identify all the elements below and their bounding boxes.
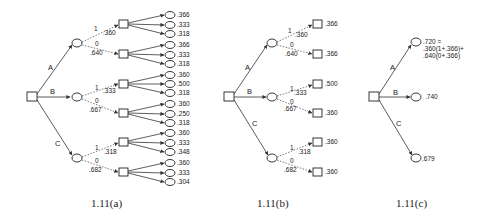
svg-text:C: C <box>396 119 402 128</box>
svg-text:.640: .640 <box>90 49 103 56</box>
decision-node-b0 <box>119 109 128 117</box>
svg-text:1: 1 <box>95 84 99 91</box>
branch-b-label: B <box>50 87 55 96</box>
svg-text:.667: .667 <box>284 105 297 112</box>
tree-a: A B C 1 .360 0 .640 1 .333 0 .667 1 .318… <box>27 11 190 210</box>
svg-text:0: 0 <box>95 157 99 164</box>
svg-text:.366: .366 <box>325 20 338 27</box>
svg-text:C: C <box>252 119 258 128</box>
svg-text:1: 1 <box>95 144 99 151</box>
svg-text:.360: .360 <box>177 71 190 78</box>
svg-text:.304: .304 <box>177 178 190 185</box>
decision-node-c0 <box>119 168 128 176</box>
svg-text:B: B <box>247 87 252 96</box>
chance-node-c <box>72 154 82 162</box>
svg-text:.250: .250 <box>177 110 190 117</box>
svg-text:.318: .318 <box>177 119 190 126</box>
svg-text:.333: .333 <box>177 21 190 28</box>
svg-text:.500: .500 <box>325 80 338 87</box>
svg-text:.360: .360 <box>177 100 190 107</box>
root-decision-node-c <box>369 92 379 101</box>
svg-text:.500: .500 <box>177 80 190 87</box>
root-decision-node <box>27 92 37 101</box>
svg-text:.360: .360 <box>177 129 190 136</box>
tree-c: A B C .720 = .360(1+.366)+ .640(0+.366) … <box>369 38 464 210</box>
svg-text:.333: .333 <box>294 89 307 96</box>
svg-text:.360: .360 <box>325 138 338 145</box>
svg-text:.360: .360 <box>103 29 116 36</box>
svg-text:.318: .318 <box>177 89 190 96</box>
svg-text:1: 1 <box>94 25 98 32</box>
svg-text:.318: .318 <box>104 148 117 155</box>
svg-text:1: 1 <box>288 27 292 34</box>
svg-text:.360: .360 <box>295 31 308 38</box>
svg-text:1: 1 <box>290 144 294 151</box>
svg-text:.333: .333 <box>177 169 190 176</box>
svg-text:.360: .360 <box>325 109 338 116</box>
chance-node-a <box>72 39 82 47</box>
svg-text:B: B <box>393 88 398 97</box>
svg-text:A: A <box>390 63 395 72</box>
svg-text:.366: .366 <box>177 11 190 18</box>
svg-text:.679: .679 <box>422 155 435 162</box>
root-decision-node-b <box>224 92 234 101</box>
decision-node-a0 <box>119 50 128 58</box>
svg-text:.667: .667 <box>89 106 102 113</box>
svg-text:.318: .318 <box>298 148 311 155</box>
svg-text:.348: .348 <box>177 148 190 155</box>
svg-text:0: 0 <box>290 98 294 105</box>
svg-text:0: 0 <box>290 157 294 164</box>
svg-text:.640: .640 <box>285 50 298 57</box>
chance-node-b <box>72 93 82 101</box>
svg-text:.318: .318 <box>177 60 190 67</box>
svg-text:.366: .366 <box>325 50 338 57</box>
svg-text:A: A <box>245 63 250 72</box>
svg-text:0: 0 <box>290 41 294 48</box>
svg-text:.366: .366 <box>177 41 190 48</box>
svg-text:0: 0 <box>95 97 99 104</box>
svg-text:.333: .333 <box>103 87 116 94</box>
svg-text:.333: .333 <box>177 51 190 58</box>
branch-a-label: A <box>48 63 53 72</box>
decision-tree-figure: A B C 1 .360 0 .640 1 .333 0 .667 1 .318… <box>0 0 483 219</box>
tree-b: A B C 1 .360 0 .640 1 .333 0 .667 1 .318… <box>224 20 338 210</box>
decision-node-b1 <box>119 80 128 88</box>
svg-text:.720 =: .720 = <box>423 38 441 45</box>
svg-text:.640(0+.366): .640(0+.366) <box>423 52 460 60</box>
decision-node-a1 <box>119 20 128 28</box>
svg-text:.682: .682 <box>284 166 297 173</box>
svg-text:.682: .682 <box>89 166 102 173</box>
svg-text:.360: .360 <box>325 168 338 175</box>
svg-text:.333: .333 <box>177 139 190 146</box>
decision-node-c1 <box>119 138 128 146</box>
svg-text:.360: .360 <box>177 159 190 166</box>
svg-text:.318: .318 <box>177 30 190 37</box>
caption-a: 1.11(a) <box>91 197 122 210</box>
caption-c: 1.11(c) <box>396 197 427 210</box>
branch-c-label: C <box>55 139 61 148</box>
svg-text:0: 0 <box>95 40 99 47</box>
caption-b: 1.11(b) <box>257 197 289 210</box>
svg-text:.740: .740 <box>425 93 438 100</box>
